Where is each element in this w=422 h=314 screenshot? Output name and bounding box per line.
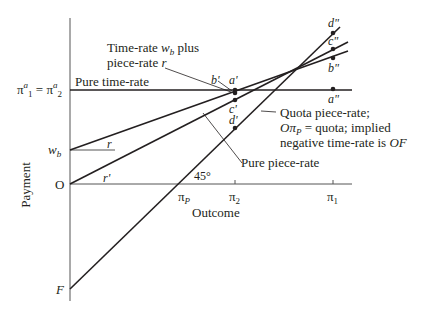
pure-time-rate-label: Pure time-rate — [75, 74, 149, 89]
quota-label-line1: Quota piece-rate; — [280, 105, 370, 120]
y-tick-origin: O — [55, 177, 64, 192]
x-axis-label: Outcome — [192, 205, 240, 220]
time-rate-plus-label-line2: piece-rate r — [107, 55, 167, 70]
x-tick-pi-1: π1 — [327, 189, 338, 206]
point-b-prime — [233, 91, 238, 96]
slope-r-label: r — [107, 137, 112, 151]
quota-label-line3: negative time-rate is OF — [280, 135, 408, 150]
leader-time-rate-plus — [165, 68, 231, 92]
y-axis-label: Payment — [18, 162, 33, 208]
incentive-payment-diagram: Payment πa1 = πa2 wb O F πP π2 π1 Outcom… — [0, 0, 422, 314]
label-b-dprime: b" — [328, 61, 340, 75]
y-tick-F: F — [55, 282, 65, 297]
label-a-prime: a' — [229, 73, 238, 87]
point-a-dprime — [331, 87, 336, 92]
leader-quota — [261, 111, 276, 112]
label-d-dprime: d" — [328, 16, 340, 30]
label-c-dprime: c" — [328, 34, 339, 48]
angle-45-label: 45° — [194, 169, 211, 183]
point-b-dprime — [331, 56, 336, 61]
y-tick-pi-a: πa1 = πa2 — [17, 80, 62, 99]
label-b-prime: b' — [211, 73, 220, 87]
x-tick-pi-2: π2 — [229, 189, 240, 206]
slope-r-prime-label: r' — [103, 171, 111, 185]
label-a-dprime: a" — [328, 92, 340, 106]
label-d-prime: d' — [229, 113, 238, 127]
y-tick-w-b: wb — [48, 142, 62, 159]
x-tick-pi-p: πP — [178, 189, 191, 206]
pure-piece-rate-label: Pure piece-rate — [241, 155, 320, 170]
